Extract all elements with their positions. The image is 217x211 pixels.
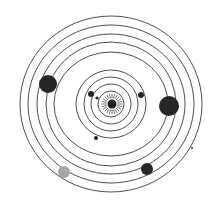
sun-ray	[116, 108, 119, 111]
sun-ray	[114, 94, 115, 98]
sun-ray	[107, 95, 109, 98]
planets	[39, 75, 193, 178]
sun-ray	[116, 97, 119, 100]
sun-icon	[102, 94, 122, 114]
sun-ray	[102, 106, 106, 107]
planet-large-left-icon	[39, 75, 57, 93]
diagram-canvas	[0, 0, 217, 211]
solar-system-diagram: Solar system orbit diagram	[0, 0, 217, 211]
sun-ray	[117, 99, 120, 101]
sun-ray	[102, 101, 106, 102]
sun-ray	[118, 106, 122, 107]
planet-inner-small-icon	[95, 96, 98, 99]
sun-ray	[107, 109, 109, 112]
sun-ray	[103, 107, 106, 109]
planet-large-right-icon	[159, 96, 179, 116]
sun-ray	[109, 110, 110, 114]
sun-ray	[105, 108, 108, 111]
planet-inner-bottom-icon	[94, 136, 98, 140]
sun-ray	[114, 110, 115, 114]
sun-core	[108, 100, 117, 109]
sun-ray	[109, 94, 110, 98]
planet-gray-icon	[58, 166, 70, 178]
sun-ray	[118, 101, 122, 102]
planet-dark-bottom-icon	[141, 163, 153, 175]
sun-ray	[115, 109, 117, 112]
sun-ray	[105, 97, 108, 100]
planet-inner-left-icon	[88, 91, 94, 97]
sun-ray	[103, 99, 106, 101]
sun-ray	[117, 107, 120, 109]
planet-inner-right-icon	[138, 92, 144, 98]
sun-ray	[115, 95, 117, 98]
planet-tiny-right-icon	[191, 147, 193, 149]
